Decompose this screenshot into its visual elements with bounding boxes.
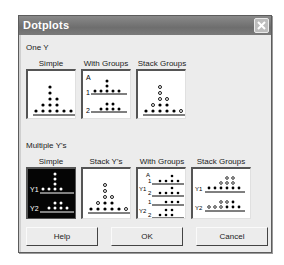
close-icon xyxy=(257,21,266,30)
svg-text:Y1: Y1 xyxy=(30,186,39,193)
svg-text:1: 1 xyxy=(148,199,152,205)
help-button[interactable]: Help xyxy=(26,227,98,246)
dotplot-with-groups-icon: A 1 2 xyxy=(83,71,131,119)
svg-text:Y2: Y2 xyxy=(195,205,203,211)
option-multiple-y-stack-ys[interactable] xyxy=(81,167,131,219)
close-button[interactable] xyxy=(254,18,269,33)
dotplot-simple-icon xyxy=(28,71,76,119)
option-multiple-y-simple[interactable]: Y1 Y2 xyxy=(26,167,76,219)
svg-text:2: 2 xyxy=(86,107,90,114)
svg-text:2: 2 xyxy=(148,212,152,218)
section-label-multiple-y: Multiple Y's xyxy=(26,141,67,150)
label-multiple-y-stack-ys: Stack Y's xyxy=(81,157,131,166)
dotplots-dialog: Dotplots One Y Simple With Groups A xyxy=(18,15,272,253)
svg-text:Y1: Y1 xyxy=(195,186,203,192)
svg-text:A: A xyxy=(86,74,91,81)
svg-text:1: 1 xyxy=(86,89,90,96)
option-one-y-simple[interactable] xyxy=(26,69,76,119)
dotplot-multiple-simple-icon: Y1 Y2 xyxy=(28,169,76,219)
option-one-y-stack-groups[interactable] xyxy=(136,69,186,119)
svg-text:Y1: Y1 xyxy=(139,186,147,192)
svg-text:Y2: Y2 xyxy=(30,205,39,212)
label-one-y-with-groups: With Groups xyxy=(79,59,133,68)
label-multiple-y-stack-groups: Stack Groups xyxy=(191,157,251,166)
label-one-y-simple: Simple xyxy=(26,59,76,68)
option-multiple-y-stack-groups[interactable]: Y1 Y2 xyxy=(191,167,251,219)
label-one-y-stack-groups: Stack Groups xyxy=(134,59,190,68)
dialog-body: One Y Simple With Groups A 1 2 xyxy=(19,35,271,252)
dotplot-multiple-with-groups-icon: A 1 Y1 2 1 Y2 2 xyxy=(138,169,186,219)
label-multiple-y-simple: Simple xyxy=(26,157,76,166)
dotplot-stack-groups-icon xyxy=(138,71,186,119)
svg-text:Y2: Y2 xyxy=(139,208,147,214)
dotplot-multiple-stack-groups-icon: Y1 Y2 xyxy=(193,169,251,219)
section-label-one-y: One Y xyxy=(26,43,49,52)
svg-text:1: 1 xyxy=(148,178,152,184)
dialog-title: Dotplots xyxy=(23,19,69,31)
title-bar[interactable]: Dotplots xyxy=(19,16,271,35)
option-one-y-with-groups[interactable]: A 1 2 xyxy=(81,69,131,119)
cancel-button[interactable]: Cancel xyxy=(196,227,268,246)
dotplot-stack-ys-icon xyxy=(83,169,131,219)
ok-button[interactable]: OK xyxy=(111,227,183,246)
label-multiple-y-with-groups: With Groups xyxy=(134,157,190,166)
svg-text:2: 2 xyxy=(148,190,152,196)
option-multiple-y-with-groups[interactable]: A 1 Y1 2 1 Y2 2 xyxy=(136,167,186,219)
